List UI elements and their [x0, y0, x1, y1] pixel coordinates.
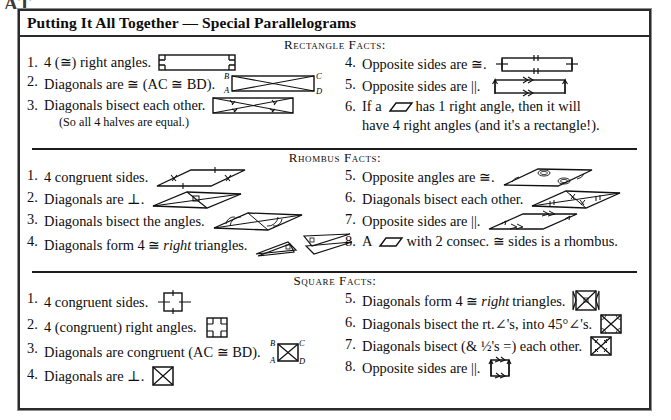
list-item: 6. Diagonals bisect the rt.∠'s, into 45°… [345, 313, 645, 335]
square-right-angles-figure [204, 315, 230, 339]
vertex-label-b: B [270, 338, 275, 348]
section-rhombus: Rhombus Facts: 1. 4 congruent sides. [20, 151, 649, 269]
item-text-after: with 2 consec. ≅ sides is a rhombus. [406, 232, 617, 251]
item-text-before: A [362, 232, 372, 251]
item-number: 1. [27, 166, 44, 185]
parallelogram-glyph-icon [379, 236, 403, 248]
list-item: 7. Diagonals bisect (& ½'s =) each other… [345, 335, 645, 357]
item-text-plain: Diagonals form 4 ≅ [44, 236, 160, 255]
list-item: 4. Diagonals form 4 ≅ right triangles. [27, 232, 335, 258]
item-text-italic: right [481, 292, 509, 311]
list-item: 4. Diagonals are ⊥. [27, 365, 335, 387]
rectangle-left-column: 1. 4 (≅) right angles. [25, 53, 335, 135]
rhombus-perp-diagonals-figure [151, 188, 243, 210]
title-bar: Putting It All Together — Special Parall… [20, 11, 649, 37]
item-text: Opposite sides are ||. [362, 359, 480, 378]
item-text: Diagonals bisect the angles. [44, 212, 205, 231]
item-text-tail: triangles. [512, 292, 565, 311]
item-number: 1. [27, 53, 44, 72]
item-number: 2. [27, 315, 44, 334]
section-heading-square: Square Facts: [25, 274, 645, 288]
item-text: 4 congruent sides. [44, 168, 148, 187]
list-item: 2. Diagonals are ⊥. [27, 188, 335, 210]
item-number: 1. [27, 289, 44, 308]
rhombus-congruent-sides-figure [155, 166, 247, 188]
item-text: Diagonals are ≅ (AC ≅ BD). [44, 75, 215, 94]
square-diagonals-bisect-figure [589, 335, 613, 357]
item-number: 2. [27, 72, 44, 91]
section-heading-rectangle: Rectangle Facts: [25, 38, 645, 52]
item-text: Diagonals are ⊥. [44, 190, 144, 209]
list-item: 7. Opposite sides are ||. [345, 210, 645, 232]
vertex-label-d: D [298, 356, 306, 366]
item-number: 8. [345, 357, 362, 376]
item-number: 5. [345, 75, 362, 94]
item-text: Diagonals bisect (& ½'s =) each other. [362, 337, 582, 356]
item-number: 6. [345, 188, 362, 207]
rectangle-opposite-congruent-figure [494, 53, 580, 75]
list-item: 1. 4 congruent sides. [27, 289, 335, 315]
item-number: 3. [27, 96, 44, 115]
square-four-right-triangles-figure [572, 289, 600, 313]
item-text: Diagonals are congruent (AC ≅ BD). [44, 343, 261, 362]
square-perp-diagonals-figure [151, 365, 175, 387]
item-number: 4. [27, 365, 44, 384]
list-item: 8. Opposite sides are ||. [345, 357, 645, 379]
item-number: 3. [27, 210, 44, 229]
rhombus-opposite-parallel-figure [487, 210, 579, 232]
page-scan-artifact: AT [4, 0, 64, 9]
rhombus-left-column: 1. 4 congruent sides. [25, 166, 335, 258]
page-title: Putting It All Together — Special Parall… [27, 14, 356, 32]
section-rectangle: Rectangle Facts: 1. 4 (≅) right angles. [20, 38, 649, 146]
rectangle-right-column: 4. Opposite sides are ≅. [335, 53, 645, 135]
item-number: 6. [345, 313, 362, 332]
list-item: 6. Diagonals bisect each other. [345, 188, 645, 210]
item-text: 4 (≅) right angles. [44, 53, 151, 72]
list-item: 3. Diagonals are congruent (AC ≅ BD). B … [27, 339, 335, 365]
section-square: Square Facts: 1. 4 congruent sides. [20, 274, 649, 392]
vertex-label-c: C [316, 71, 322, 81]
square-diagonals-labeled-figure: B C A D [268, 339, 308, 365]
list-item: 3. Diagonals bisect each other. [27, 96, 335, 115]
item-number: 5. [345, 166, 362, 185]
list-item: 3. Diagonals bisect the angles. [27, 210, 335, 232]
item-text: 4 congruent sides. [44, 293, 148, 312]
list-item: 5. Opposite angles are ≅. [345, 166, 645, 188]
vertex-label-a: A [269, 355, 276, 365]
item-text: Opposite sides are ||. [362, 77, 480, 96]
list-item: 1. 4 congruent sides. [27, 166, 335, 188]
rhombus-bisect-angles-figure [212, 210, 304, 232]
list-item: 1. 4 (≅) right angles. [27, 53, 335, 72]
item-number: 8. [345, 232, 362, 251]
list-item: 4. Opposite sides are ≅. [345, 53, 645, 75]
list-item: 2. 4 (congruent) right angles. [27, 315, 335, 339]
list-item: 6. If a has 1 right angle, then it will [345, 97, 645, 116]
list-item: 8. A with 2 consec. ≅ sides is a rhombus… [345, 232, 645, 251]
rhombus-opposite-angles-figure [502, 166, 594, 188]
rectangle-right-angles-figure [158, 53, 236, 72]
item-number: 4. [345, 53, 362, 72]
square-left-column: 1. 4 congruent sides. 2. [25, 289, 335, 387]
vertex-label-d: D [315, 86, 323, 96]
list-item-continuation: have 4 right angles (and it's a rectangl… [345, 116, 645, 135]
vertex-label-c: C [299, 338, 305, 348]
item-text: Opposite angles are ≅. [362, 168, 495, 187]
item-text: 4 (congruent) right angles. [44, 318, 197, 337]
item-text-italic: right [163, 236, 191, 255]
rectangle-diagonals-labeled-figure: B C A D [222, 72, 322, 96]
item-text-after: has 1 right angle, then it will [416, 97, 581, 116]
item-text: Diagonals bisect each other. [44, 96, 205, 115]
vertex-label-a: A [223, 85, 230, 95]
item-text: Diagonals are ⊥. [44, 367, 144, 386]
item-number: 7. [345, 335, 362, 354]
vertex-label-b: B [224, 71, 229, 81]
rectangle-opposite-parallel-figure [487, 75, 573, 97]
square-opposite-parallel-figure [487, 357, 513, 379]
item-text: Diagonals bisect the rt.∠'s, into 45°∠'s… [362, 315, 592, 334]
item-number: 4. [27, 232, 44, 251]
item-text-before: If a [362, 97, 382, 116]
item-subnote: (So all 4 halves are equal.) [27, 115, 335, 130]
item-number: 5. [345, 289, 362, 308]
list-item: 5. Diagonals form 4 ≅ right triangles. [345, 289, 645, 313]
rhombus-right-column: 5. Opposite angles are ≅. [335, 166, 645, 258]
